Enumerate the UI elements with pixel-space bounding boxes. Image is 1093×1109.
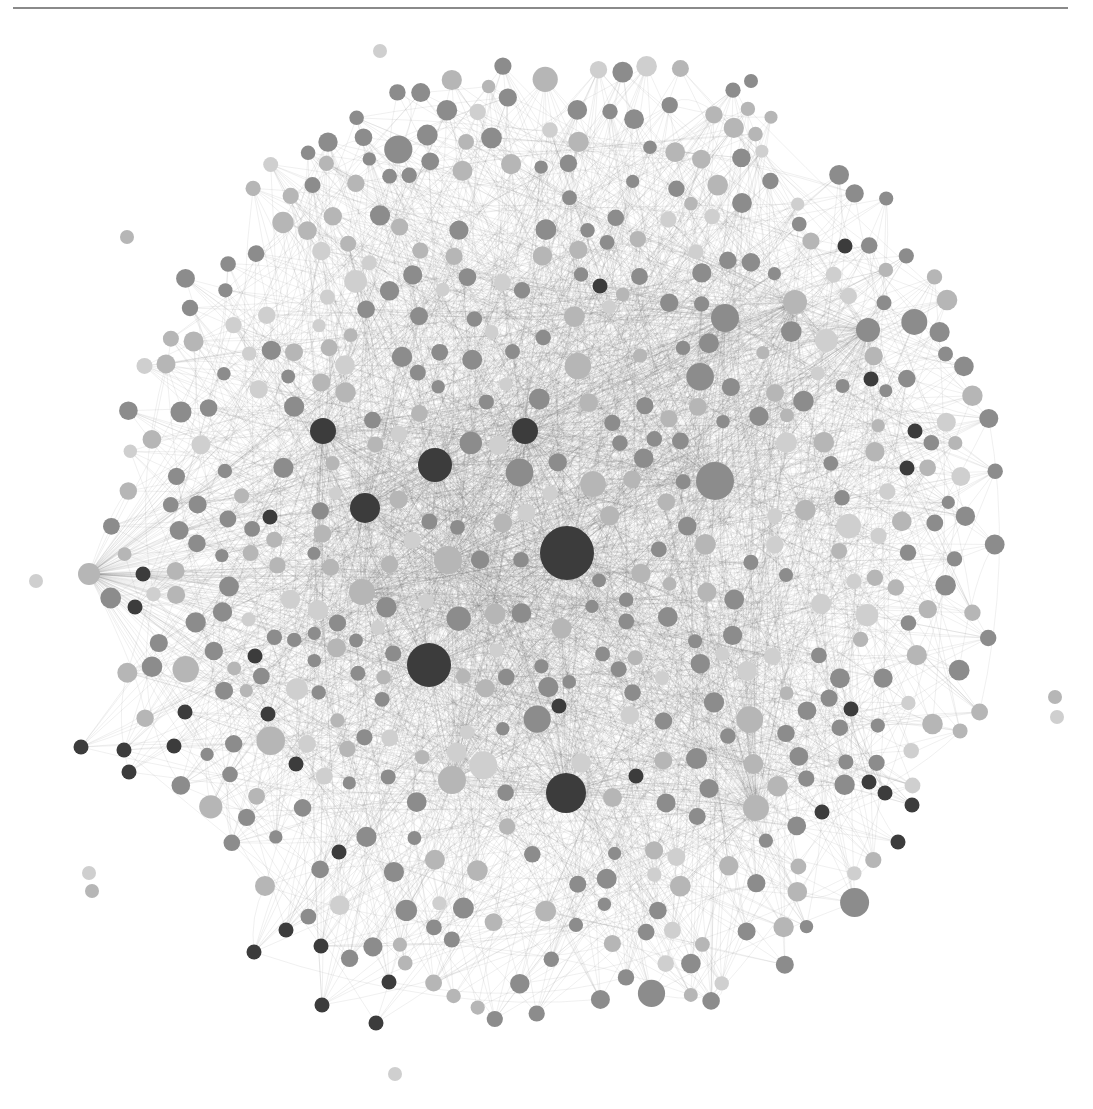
graph-node: [638, 924, 655, 941]
graph-node: [649, 902, 667, 920]
graph-node: [172, 776, 191, 795]
graph-node: [307, 547, 320, 560]
graph-node: [811, 648, 827, 664]
graph-node: [189, 495, 207, 513]
graph-node: [445, 248, 462, 265]
graph-node: [191, 435, 210, 454]
graph-node: [879, 263, 893, 277]
graph-node: [738, 922, 756, 940]
graph-node: [384, 862, 404, 882]
graph-node: [660, 212, 676, 228]
graph-node: [689, 398, 707, 416]
graph-node: [768, 267, 781, 280]
graph-node: [704, 692, 724, 712]
graph-node: [580, 471, 606, 497]
network-graph: [0, 0, 1093, 1109]
graph-node: [534, 160, 547, 173]
hub-node: [783, 290, 807, 314]
graph-node: [225, 735, 242, 752]
graph-node: [497, 785, 513, 801]
graph-node: [765, 111, 778, 124]
graph-node: [815, 329, 838, 352]
graph-node: [417, 125, 438, 146]
graph-node: [218, 464, 232, 478]
graph-node: [604, 935, 621, 952]
graph-node: [460, 432, 482, 454]
graph-node: [381, 556, 398, 573]
graph-node: [456, 669, 471, 684]
graph-node: [962, 386, 982, 406]
graph-node: [314, 939, 329, 954]
graph-node: [732, 149, 751, 168]
graph-node: [905, 798, 920, 813]
graph-node: [654, 752, 672, 770]
graph-node: [505, 344, 520, 359]
graph-node: [823, 456, 838, 471]
graph-node: [506, 459, 534, 487]
graph-node: [543, 486, 558, 501]
graph-node: [591, 990, 610, 1009]
graph-node: [732, 193, 752, 213]
graph-node: [700, 779, 719, 798]
graph-node: [117, 743, 132, 758]
graph-node: [951, 467, 970, 486]
graph-node: [227, 662, 241, 676]
graph-node: [672, 60, 689, 77]
graph-node: [631, 268, 648, 285]
hub-node: [438, 766, 466, 794]
graph-node: [118, 547, 132, 561]
graph-node: [907, 645, 927, 665]
hub-node: [434, 546, 462, 574]
graph-node: [312, 502, 329, 519]
graph-node: [766, 536, 783, 553]
graph-node: [722, 378, 740, 396]
graph-node: [367, 436, 383, 452]
graph-node: [552, 699, 567, 714]
graph-node: [874, 669, 893, 688]
graph-node: [402, 168, 417, 183]
graph-node: [633, 349, 647, 363]
graph-node: [494, 58, 511, 75]
graph-node: [764, 648, 781, 665]
graph-node: [657, 793, 676, 812]
graph-node: [536, 219, 557, 240]
graph-node: [339, 741, 355, 757]
graph-node: [186, 612, 206, 632]
graph-node: [634, 449, 654, 469]
graph-node: [619, 593, 634, 608]
graph-node: [247, 945, 262, 960]
graph-node: [182, 300, 198, 316]
graph-node: [815, 805, 830, 820]
graph-node: [320, 290, 335, 305]
graph-node: [255, 876, 275, 896]
graph-node: [802, 232, 819, 249]
graph-node: [178, 705, 193, 720]
graph-node: [748, 127, 763, 142]
graph-node: [376, 670, 390, 684]
graph-node: [743, 754, 763, 774]
hub-node: [540, 526, 594, 580]
graph-node: [489, 436, 508, 455]
graph-node: [225, 317, 241, 333]
graph-node: [392, 347, 412, 367]
graph-node: [628, 650, 643, 665]
hub-node: [418, 448, 452, 482]
graph-node: [590, 61, 607, 78]
graph-node: [407, 792, 427, 812]
graph-node: [724, 118, 744, 138]
graph-node: [258, 307, 275, 324]
graph-node: [321, 339, 338, 356]
graph-node: [869, 755, 885, 771]
graph-node: [636, 397, 653, 414]
graph-node: [660, 410, 677, 427]
graph-edges: [81, 66, 999, 1023]
graph-node: [898, 370, 916, 388]
graph-node: [329, 614, 346, 631]
graph-node: [128, 600, 143, 615]
graph-node: [678, 517, 697, 536]
graph-node: [988, 464, 1003, 479]
graph-node: [964, 605, 980, 621]
graph-node: [686, 363, 714, 391]
graph-node: [621, 706, 639, 724]
graph-node: [376, 597, 396, 617]
